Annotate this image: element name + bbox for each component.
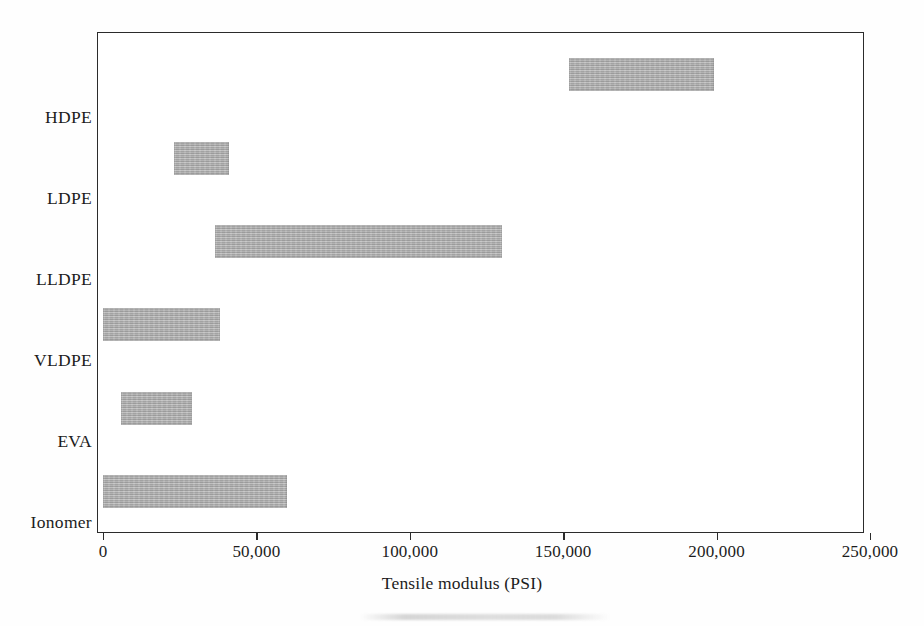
y-axis-label-hdpe: HDPE bbox=[0, 109, 92, 127]
bar-ionomer bbox=[103, 475, 287, 508]
x-axis-title: Tensile modulus (PSI) bbox=[0, 573, 924, 594]
chart-figure: HDPE LDPE LLDPE VLDPE EVA Ionomer 0 50,0… bbox=[0, 0, 924, 626]
x-tick-label-150000: 150,000 bbox=[535, 543, 592, 560]
y-axis-label-vldpe: VLDPE bbox=[0, 352, 92, 370]
x-tick-label-0: 0 bbox=[99, 543, 108, 560]
x-tick-150000 bbox=[563, 533, 564, 540]
scan-artifact bbox=[360, 614, 610, 620]
y-axis-label-eva: EVA bbox=[0, 433, 92, 451]
x-tick-100000 bbox=[410, 533, 411, 540]
y-axis-label-ionomer: Ionomer bbox=[0, 514, 92, 532]
x-tick-label-200000: 200,000 bbox=[688, 543, 745, 560]
x-axis-tick-labels: 0 50,000 100,000 150,000 200,000 250,000 bbox=[0, 543, 924, 567]
bar-hdpe bbox=[569, 58, 713, 91]
bar-lldpe bbox=[215, 225, 502, 258]
plot-area bbox=[103, 33, 870, 533]
x-tick-label-100000: 100,000 bbox=[381, 543, 438, 560]
y-axis-category-labels: HDPE LDPE LLDPE VLDPE EVA Ionomer bbox=[0, 33, 92, 533]
x-tick-label-250000: 250,000 bbox=[842, 543, 899, 560]
y-axis-label-lldpe: LLDPE bbox=[0, 271, 92, 289]
x-tick-0 bbox=[103, 533, 104, 540]
bar-ldpe bbox=[174, 142, 229, 175]
bar-eva bbox=[121, 392, 192, 425]
x-tick-50000 bbox=[256, 533, 257, 540]
x-tick-250000 bbox=[870, 533, 871, 540]
x-tick-label-50000: 50,000 bbox=[232, 543, 280, 560]
bar-vldpe bbox=[103, 308, 220, 341]
y-axis-label-ldpe: LDPE bbox=[0, 190, 92, 208]
x-axis-ticks bbox=[103, 533, 870, 543]
x-tick-200000 bbox=[717, 533, 718, 540]
